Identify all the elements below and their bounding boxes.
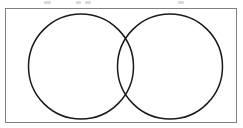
venn-diagram-svg (0, 0, 243, 128)
venn-diagram-figure: Two-circle Venn diagram (0, 0, 243, 128)
